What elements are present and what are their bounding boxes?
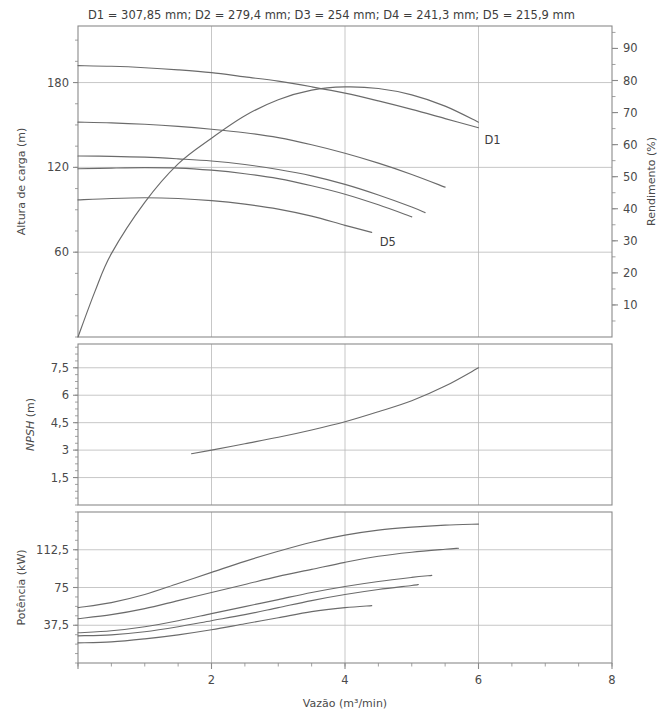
y-tick-label: 6 [62, 388, 69, 402]
pump-performance-chart: 601201801,534,567,537,575112,51020304050… [0, 0, 667, 727]
y2-tick-label: 90 [623, 41, 638, 55]
y-tick-label: 4,5 [51, 416, 69, 430]
y2-tick-label: 10 [623, 298, 638, 312]
y-tick-label: 1,5 [51, 471, 69, 485]
curve-label-d1: D1 [485, 133, 501, 147]
curve-head-efficiency-D2 [78, 122, 445, 187]
x-tick-label: 2 [208, 673, 215, 687]
curve-label-d5: D5 [380, 235, 396, 249]
y2-tick-label: 40 [623, 202, 638, 216]
x-tick-label: 4 [341, 673, 348, 687]
y-tick-label: 3 [62, 443, 69, 457]
y2-tick-label: 70 [623, 106, 638, 120]
curve-head-efficiency-D4 [78, 168, 412, 217]
y-tick-label: 7,5 [51, 361, 69, 375]
diameter-note: D1 = 307,85 mm; D2 = 279,4 mm; D3 = 254 … [88, 8, 575, 22]
x-tick-label: 8 [608, 673, 615, 687]
x-axis-title: Vazão (m³/min) [303, 697, 387, 710]
y-tick-label: 112,5 [36, 543, 69, 557]
y2-tick-label: 80 [623, 74, 638, 88]
curve-power-D2 [78, 548, 458, 618]
efficiency-axis-title: Rendimento (%) [645, 137, 658, 226]
y2-tick-label: 50 [623, 170, 638, 184]
curve-head-efficiency-D5 [78, 198, 372, 233]
y-tick-label: 37,5 [43, 618, 69, 632]
curve-head-efficiency-D3 [78, 156, 425, 213]
chart-canvas: 601201801,534,567,537,575112,51020304050… [0, 0, 667, 727]
y2-tick-label: 30 [623, 234, 638, 248]
curve-power-D3 [78, 575, 432, 632]
y2-tick-label: 60 [623, 138, 638, 152]
npsh-axis-title: NPSH (m) [24, 398, 37, 451]
y-tick-label: 180 [47, 76, 69, 90]
curve-power-D1 [78, 524, 479, 608]
curve-power-D4 [78, 584, 418, 635]
head-axis-title: Altura de carga (m) [15, 128, 28, 236]
y-tick-label: 75 [54, 581, 69, 595]
y-tick-label: 120 [47, 160, 69, 174]
y-tick-label: 60 [54, 245, 69, 259]
x-tick-label: 6 [475, 673, 482, 687]
curve-npsh-NPSH [191, 368, 478, 454]
power-axis-title: Potência (kW) [15, 549, 28, 625]
y2-tick-label: 20 [623, 266, 638, 280]
